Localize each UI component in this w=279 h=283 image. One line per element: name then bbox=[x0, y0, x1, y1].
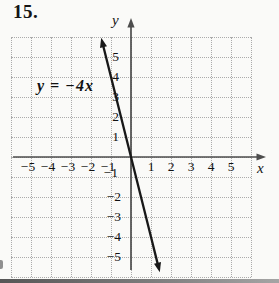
scan-artifact-bottom-edge bbox=[0, 279, 279, 283]
x-axis-tick-label: 4 bbox=[201, 159, 221, 174]
y-axis-tick-label: 3 bbox=[95, 89, 119, 104]
y-axis-tick-label: −1 bbox=[92, 165, 118, 180]
x-axis-letter: x bbox=[257, 161, 264, 176]
scan-artifact-left-edge bbox=[0, 260, 3, 269]
x-axis-tick-label: −3 bbox=[58, 159, 78, 174]
y-axis-tick-label: −5 bbox=[95, 249, 121, 264]
y-axis-tick-label: 1 bbox=[95, 129, 119, 144]
function-line-arrowhead-top bbox=[100, 38, 107, 48]
plot-svg bbox=[0, 0, 279, 283]
y-axis-tick-label: 5 bbox=[95, 49, 119, 64]
x-axis-tick-label: 3 bbox=[181, 159, 201, 174]
equation-label: y = −4x bbox=[37, 77, 94, 95]
y-axis-tick-label: 2 bbox=[95, 109, 119, 124]
coordinate-plane: −5−4−3−2−11234554321−1−2−3−4−5 y x y = −… bbox=[0, 0, 279, 283]
x-axis-tick-label: −4 bbox=[38, 159, 58, 174]
x-axis-tick-label: 5 bbox=[221, 159, 241, 174]
textbook-figure: 15. −5−4−3−2−11234554321−1−2−3−4−5 y x y… bbox=[0, 0, 279, 283]
y-axis-letter: y bbox=[112, 13, 119, 28]
y-axis-tick-label: −2 bbox=[95, 189, 121, 204]
y-axis-arrowhead bbox=[127, 18, 134, 28]
y-axis-tick-label: −4 bbox=[95, 229, 121, 244]
x-axis-tick-label: 1 bbox=[141, 159, 161, 174]
y-axis-tick-label: 4 bbox=[95, 69, 119, 84]
x-axis-tick-label: −5 bbox=[18, 159, 38, 174]
function-line-arrowhead-bottom bbox=[154, 262, 161, 272]
x-axis-tick-label: 2 bbox=[161, 159, 181, 174]
y-axis-tick-label: −3 bbox=[95, 209, 121, 224]
